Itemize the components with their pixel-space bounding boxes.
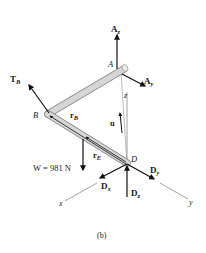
dx-force-arrow	[100, 164, 127, 178]
re-label: rE	[93, 150, 102, 161]
ay-force-arrow	[122, 74, 145, 86]
x-axis-line	[65, 183, 97, 201]
tb-label: TB	[10, 74, 21, 85]
figure-caption: (b)	[97, 231, 107, 240]
u-label: u	[110, 118, 115, 128]
dz-label: Dz	[131, 188, 141, 199]
ay-label: Ay	[144, 76, 154, 87]
point-d-label: D	[130, 154, 138, 164]
u-unit-vector-arrow	[120, 113, 122, 133]
rb-label: rB	[70, 110, 79, 121]
free-body-diagram: Az A Ay z TB B rB u rE W = 981 N D Dy Dx…	[0, 0, 206, 253]
point-b-label: B	[33, 110, 38, 120]
rod-ab	[48, 64, 129, 114]
dx-label: Dx	[101, 181, 112, 192]
az-label: Az	[111, 24, 121, 35]
y-axis-label: y	[188, 198, 193, 207]
dy-label: Dy	[150, 165, 160, 176]
ad-line	[121, 72, 127, 164]
re-vector-arrow	[86, 137, 126, 162]
tb-force-arrow	[29, 85, 49, 113]
weight-label: W = 981 N	[33, 163, 71, 173]
point-a-label: A	[107, 59, 114, 69]
x-axis-label: x	[58, 199, 63, 208]
y-axis-line	[160, 183, 188, 199]
